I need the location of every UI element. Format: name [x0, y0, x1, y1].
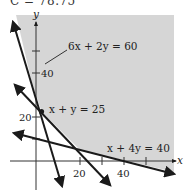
constraint-label-6x-2y-60: 6x + 2y = 60	[68, 40, 138, 52]
optimal-vertex-point	[39, 109, 44, 114]
y-tick-label-20: 20	[19, 112, 32, 123]
feasible-region-graph: 40 20 20 40 y x 6x + 2y = 60 x + y = 25 …	[0, 0, 184, 193]
constraint-label-x-4y-40: x + 4y = 40	[107, 142, 170, 154]
x-tick-label-40: 40	[117, 168, 130, 179]
y-tick-label-40: 40	[41, 68, 54, 79]
constraint-label-x-y-25: x + y = 25	[49, 103, 105, 115]
y-axis-label: y	[32, 8, 40, 20]
x-tick-label-20: 20	[73, 168, 86, 179]
x-axis-label: x	[177, 154, 183, 166]
